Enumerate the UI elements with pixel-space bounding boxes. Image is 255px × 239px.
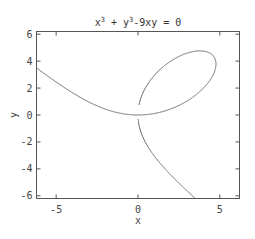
x-axis-label: x [135,215,141,226]
title-rest: -9xy = 0 [133,17,181,28]
x-tick-label: -5 [50,204,62,215]
y-tick-label: -4 [20,163,32,174]
x-tick-label: 5 [217,204,223,215]
chart: x3 + y3-9xy = 0 -505-6-4-20246 x y [0,0,255,239]
y-tick-label: -6 [20,190,32,201]
y-tick-label: 0 [26,110,32,121]
title-plus: + [105,17,123,28]
y-tick-label: -2 [20,136,32,147]
curve-line [37,51,216,199]
y-axis-label: y [8,112,19,118]
tick-labels: -505-6-4-20246 [20,29,222,215]
y-tick-label: 4 [26,56,32,67]
y-tick-label: 2 [26,83,32,94]
y-tick-label: 6 [26,29,32,40]
chart-title: x3 + y3-9xy = 0 [95,16,182,28]
x-tick-label: 0 [135,204,141,215]
